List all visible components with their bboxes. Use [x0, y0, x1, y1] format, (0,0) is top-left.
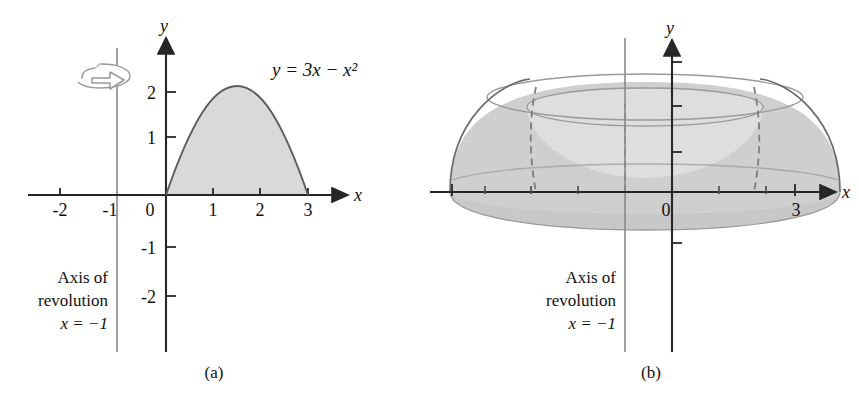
y-label--2: -2 — [141, 287, 156, 307]
revolution-annotation-b-line2: revolution — [546, 291, 616, 310]
revolution-annotation-a-line2: revolution — [38, 291, 108, 310]
origin-label-a: 0 — [146, 200, 155, 220]
revolution-annotation-a-line3: x = −1 — [60, 314, 109, 333]
origin-label-b: 0 — [662, 200, 671, 220]
rotation-arrow-icon — [78, 64, 130, 89]
x-label-2: 2 — [256, 200, 265, 220]
figure-canvas: -2 -1 0 1 2 3 2 1 -1 -2 x y y = 3x − x² … — [0, 0, 859, 404]
x-label--2: -2 — [53, 200, 68, 220]
figure-root: -2 -1 0 1 2 3 2 1 -1 -2 x y y = 3x − x² … — [0, 0, 859, 404]
panel-caption-b: (b) — [641, 363, 661, 382]
y-label-2: 2 — [147, 83, 156, 103]
equation-label-a: y = 3x − x² — [270, 59, 357, 80]
revolution-annotation-b-line1: Axis of — [565, 268, 616, 287]
x-axis-label-b: x — [841, 182, 850, 202]
x-axis-label-a: x — [353, 185, 362, 205]
panel-a: -2 -1 0 1 2 3 2 1 -1 -2 x y y = 3x − x² … — [28, 16, 362, 382]
y-axis-label-b: y — [664, 18, 674, 38]
x-label--1: -1 — [103, 200, 118, 220]
revolution-annotation-a-line1: Axis of — [57, 268, 108, 287]
panel-b: 0 3 x y Axis of revolution x = −1 (b) — [430, 18, 850, 382]
y-axis-label-a: y — [158, 16, 168, 36]
revolution-annotation-b-line3: x = −1 — [568, 314, 617, 333]
y-label--1: -1 — [141, 238, 156, 258]
y-label-1: 1 — [147, 128, 156, 148]
panel-caption-a: (a) — [205, 363, 224, 382]
x-label-3: 3 — [304, 200, 313, 220]
x-label-1: 1 — [209, 200, 218, 220]
x-label-b-3: 3 — [792, 200, 801, 220]
